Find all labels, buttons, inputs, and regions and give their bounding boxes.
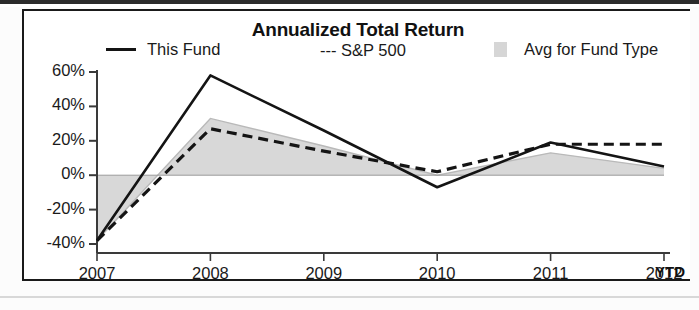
chart-svg bbox=[24, 11, 692, 283]
y-axis-tick-0: 0% bbox=[23, 164, 85, 183]
scan-edge-bottom bbox=[0, 296, 699, 298]
scanned-page: Annualized Total Return This Fund --- S&… bbox=[0, 0, 699, 310]
x-axis-ytd-label: YTD bbox=[655, 263, 685, 280]
y-axis-tick-20: 20% bbox=[23, 130, 85, 149]
y-axis-tick-60: 60% bbox=[23, 61, 85, 80]
x-axis-tick-2008: 2008 bbox=[170, 264, 250, 283]
x-axis-tick-2009: 2009 bbox=[284, 264, 364, 283]
y-axis-tick-neg40: -40% bbox=[23, 233, 85, 252]
x-axis-tick-2010: 2010 bbox=[397, 264, 477, 283]
x-axis-tick-2007: 2007 bbox=[57, 264, 137, 283]
scan-edge-highlight bbox=[0, 4, 699, 7]
x-axis-tick-2011: 2011 bbox=[511, 264, 591, 283]
plot-area bbox=[24, 11, 692, 283]
y-axis-tick-neg20: -20% bbox=[23, 199, 85, 218]
y-axis-tick-40: 40% bbox=[23, 95, 85, 114]
chart-card: Annualized Total Return This Fund --- S&… bbox=[22, 9, 690, 281]
